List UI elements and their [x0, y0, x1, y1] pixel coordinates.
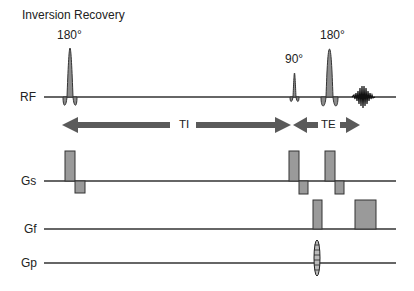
phase-encoding-gradient-table [314, 240, 320, 276]
slice-select-gradient-refocusing [325, 151, 344, 194]
frequency-encoding-gradient [313, 200, 376, 229]
pulse-sequence-diagram [0, 0, 414, 291]
echo-signal [352, 86, 375, 108]
ti-label: TI [176, 118, 192, 130]
te-label: TE [320, 118, 337, 130]
excitation-rf-pulse [290, 73, 299, 102]
slice-select-gradient-inversion [65, 151, 85, 193]
inversion-rf-pulse [63, 48, 77, 105]
slice-select-gradient-excitation [289, 151, 308, 194]
refocusing-rf-pulse [321, 49, 338, 106]
